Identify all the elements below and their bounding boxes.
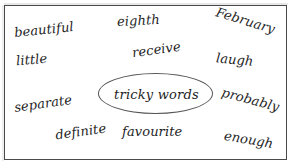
center-ellipse-label: tricky words	[99, 74, 214, 115]
word-laugh: laugh	[215, 50, 254, 68]
word-favourite: favourite	[122, 124, 182, 139]
word-beautiful: beautiful	[13, 19, 74, 40]
word-receive: receive	[131, 39, 181, 61]
word-february: February	[214, 4, 277, 36]
word-eighth: eighth	[117, 12, 160, 29]
center-ellipse: tricky words	[98, 73, 213, 114]
word-separate: separate	[13, 92, 73, 115]
worksheet-border: beautifuleighthFebruarylittlereceivelaug…	[4, 5, 287, 160]
word-enough: enough	[223, 128, 274, 151]
word-little: little	[15, 51, 47, 69]
tricky-words-worksheet: beautifuleighthFebruarylittlereceivelaug…	[0, 0, 293, 168]
word-probably: probably	[220, 85, 281, 115]
word-definite: definite	[54, 121, 107, 143]
